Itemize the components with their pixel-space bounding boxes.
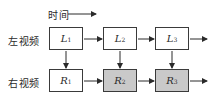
left-video-label: 左视频	[8, 33, 40, 48]
frame-symbol: R	[60, 75, 68, 86]
frame-symbol: L	[167, 33, 174, 44]
frame-box-r3: R3	[155, 69, 189, 92]
frame-symbol: R	[114, 75, 122, 86]
frame-index: 1	[67, 36, 71, 43]
frame-index: 1	[68, 78, 72, 85]
frame-symbol: R	[166, 75, 174, 86]
frame-box-l2: L2	[103, 27, 137, 50]
frame-box-r2: R2	[103, 69, 137, 92]
frame-box-r1: R1	[49, 69, 83, 92]
frame-symbol: L	[61, 33, 68, 44]
frame-box-l1: L1	[49, 27, 83, 50]
frame-symbol: L	[115, 33, 122, 44]
right-video-label: 右视频	[8, 75, 40, 90]
frame-index: 2	[121, 36, 125, 43]
frame-index: 2	[122, 78, 126, 85]
frame-box-l3: L3	[155, 27, 189, 50]
time-label: 时间	[48, 7, 69, 22]
frame-index: 3	[174, 78, 178, 85]
frame-index: 3	[173, 36, 177, 43]
